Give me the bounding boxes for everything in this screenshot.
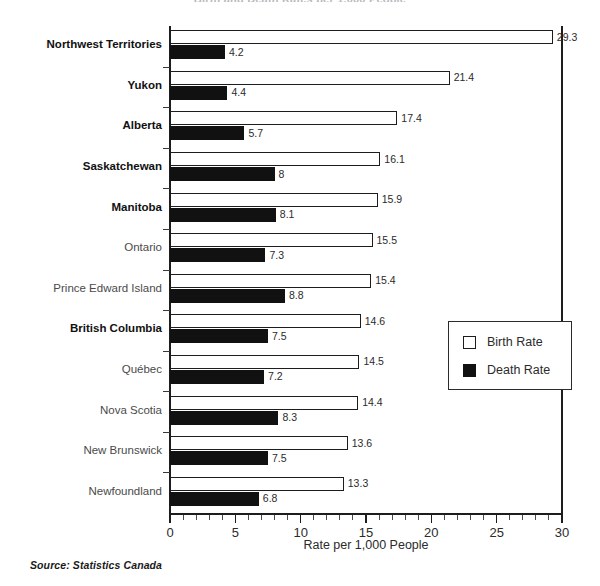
bar-birth-rate[interactable]	[170, 274, 371, 288]
x-tick-minor	[392, 515, 393, 520]
x-tick-minor	[326, 515, 327, 520]
category-label: New Brunswick	[0, 444, 162, 457]
bar-death-rate[interactable]	[170, 208, 276, 222]
x-tick-minor	[548, 515, 549, 520]
bar-value-death-rate: 7.5	[272, 329, 287, 343]
bar-value-birth-rate: 15.9	[382, 192, 402, 206]
bar-value-birth-rate: 16.1	[384, 152, 404, 166]
category-label: Saskatchewan	[0, 160, 162, 173]
chart-row: 15.98.1	[170, 193, 562, 225]
bar-death-rate[interactable]	[170, 248, 265, 262]
bar-birth-rate[interactable]	[170, 477, 344, 491]
bar-death-rate[interactable]	[170, 370, 264, 384]
category-tick	[163, 188, 170, 189]
bar-birth-rate[interactable]	[170, 396, 358, 410]
x-tick-major	[235, 515, 237, 523]
bar-birth-rate[interactable]	[170, 314, 361, 328]
category-tick	[163, 148, 170, 149]
bar-death-rate[interactable]	[170, 167, 275, 181]
category-label: Manitoba	[0, 201, 162, 214]
bar-value-birth-rate: 15.4	[375, 273, 395, 287]
bar-value-birth-rate: 29.3	[557, 30, 577, 44]
bar-value-birth-rate: 13.3	[348, 476, 368, 490]
category-tick	[163, 432, 170, 433]
category-label: Northwest Territories	[0, 38, 162, 51]
bar-death-rate[interactable]	[170, 329, 268, 343]
x-tick-minor	[444, 515, 445, 520]
bar-death-rate[interactable]	[170, 45, 225, 59]
x-tick-minor	[522, 515, 523, 520]
category-label: Nova Scotia	[0, 404, 162, 417]
category-label: Alberta	[0, 119, 162, 132]
x-tick-minor	[248, 515, 249, 520]
x-tick-major	[300, 515, 302, 523]
x-tick-minor	[274, 515, 275, 520]
bar-value-death-rate: 7.3	[269, 248, 284, 262]
x-tick-minor	[261, 515, 262, 520]
bar-value-birth-rate: 21.4	[454, 70, 474, 84]
bar-birth-rate[interactable]	[170, 111, 397, 125]
category-label: Newfoundland	[0, 485, 162, 498]
chart-row: 15.48.8	[170, 274, 562, 306]
bar-value-birth-rate: 14.5	[363, 354, 383, 368]
bar-value-death-rate: 8.1	[280, 207, 295, 221]
bar-value-death-rate: 7.2	[268, 369, 283, 383]
chart-legend: Birth RateDeath Rate	[448, 321, 572, 390]
bar-death-rate[interactable]	[170, 411, 278, 425]
bar-birth-rate[interactable]	[170, 30, 553, 44]
bar-death-rate[interactable]	[170, 86, 227, 100]
category-label: British Columbia	[0, 322, 162, 335]
x-tick-minor	[509, 515, 510, 520]
chart-row: 17.45.7	[170, 111, 562, 143]
x-axis-title: Rate per 1,000 People	[170, 538, 562, 552]
bar-birth-rate[interactable]	[170, 152, 380, 166]
bar-value-birth-rate: 17.4	[401, 111, 421, 125]
bar-birth-rate[interactable]	[170, 71, 450, 85]
bar-value-death-rate: 5.7	[248, 126, 263, 140]
category-tick	[163, 310, 170, 311]
bar-death-rate[interactable]	[170, 126, 244, 140]
category-tick	[163, 107, 170, 108]
legend-item[interactable]: Death Rate	[463, 362, 550, 378]
category-label: Yukon	[0, 79, 162, 92]
chart-row: 21.44.4	[170, 71, 562, 103]
bar-birth-rate[interactable]	[170, 436, 348, 450]
x-tick-minor	[313, 515, 314, 520]
bar-birth-rate[interactable]	[170, 193, 378, 207]
bar-value-death-rate: 8	[279, 167, 285, 181]
chart-figure: Birth and Death Rates per 1,000 People N…	[0, 0, 600, 586]
bar-value-birth-rate: 14.4	[362, 395, 382, 409]
bar-birth-rate[interactable]	[170, 233, 373, 247]
bar-value-death-rate: 4.4	[231, 85, 246, 99]
category-axis-labels: Northwest TerritoriesYukonAlbertaSaskatc…	[0, 26, 170, 513]
x-tick-minor	[339, 515, 340, 520]
x-tick-minor	[352, 515, 353, 520]
bar-death-rate[interactable]	[170, 451, 268, 465]
chart-row: 13.67.5	[170, 436, 562, 468]
legend-label: Death Rate	[487, 363, 550, 377]
bar-birth-rate[interactable]	[170, 355, 359, 369]
bar-value-death-rate: 8.3	[282, 410, 297, 424]
category-label: Québec	[0, 363, 162, 376]
bar-value-birth-rate: 15.5	[377, 233, 397, 247]
x-tick-minor	[405, 515, 406, 520]
legend-swatch-birth-icon	[463, 336, 476, 349]
x-tick-major	[431, 515, 433, 523]
bar-value-birth-rate: 14.6	[365, 314, 385, 328]
bar-death-rate[interactable]	[170, 289, 285, 303]
chart-title: Birth and Death Rates per 1,000 People	[0, 0, 600, 2]
x-tick-major	[365, 515, 367, 523]
bar-value-death-rate: 8.8	[289, 288, 304, 302]
chart-row: 29.34.2	[170, 30, 562, 62]
x-tick-minor	[209, 515, 210, 520]
bar-death-rate[interactable]	[170, 492, 259, 506]
chart-row: 14.48.3	[170, 396, 562, 428]
x-tick-minor	[457, 515, 458, 520]
x-tick-minor	[379, 515, 380, 520]
x-tick-minor	[418, 515, 419, 520]
legend-swatch-death-icon	[463, 364, 476, 377]
x-tick-major	[496, 515, 498, 523]
legend-item[interactable]: Birth Rate	[463, 334, 543, 350]
x-tick-major	[561, 515, 563, 523]
chart-row: 15.57.3	[170, 233, 562, 265]
